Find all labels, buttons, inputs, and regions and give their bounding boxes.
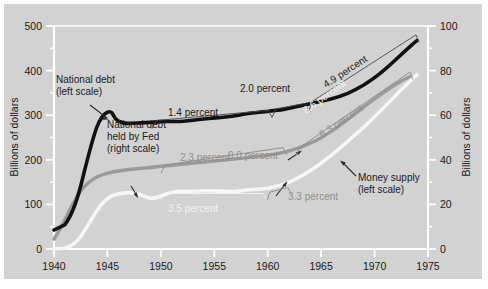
x-tick-1945: 1945 bbox=[96, 260, 120, 272]
annotation-national-debt-line1: National debt bbox=[56, 74, 115, 85]
left-tick-200: 200 bbox=[24, 154, 42, 166]
x-tick-1940: 1940 bbox=[42, 260, 66, 272]
annotation-money-supply-line1: Money supply bbox=[358, 172, 420, 183]
annotation-fed-debt-line2: held by Fed bbox=[107, 131, 159, 142]
annotation-rate-9-0: 9.0 percent bbox=[228, 150, 278, 161]
right-tick-labels: 100 80 60 40 20 0 bbox=[440, 20, 458, 255]
axes bbox=[46, 26, 436, 257]
right-tick-100: 100 bbox=[440, 20, 458, 32]
annotation-rate-2-0: 2.0 percent bbox=[240, 83, 290, 94]
annotation-rate-2-3: 2.3 percent bbox=[180, 152, 230, 163]
x-tick-1965: 1965 bbox=[309, 260, 333, 272]
leader-national-debt bbox=[90, 105, 107, 118]
right-tick-40: 40 bbox=[440, 154, 452, 166]
chart-figure: 500 400 300 200 100 0 100 80 60 40 20 0 … bbox=[0, 0, 488, 289]
annotation-national-debt-line2: (left scale) bbox=[56, 86, 102, 97]
annotation-money-supply-line2: (left scale) bbox=[358, 184, 404, 195]
x-tick-labels: 1940 1945 1950 1955 1960 1965 1970 1975 bbox=[42, 260, 440, 272]
x-tick-1955: 1955 bbox=[203, 260, 227, 272]
x-tick-1970: 1970 bbox=[363, 260, 387, 272]
annotation-rate-1-4: 1.4 percent bbox=[168, 107, 218, 118]
left-tick-labels: 500 400 300 200 100 0 bbox=[24, 20, 42, 255]
right-tick-20: 20 bbox=[440, 198, 452, 210]
plot-area: 500 400 300 200 100 0 100 80 60 40 20 0 … bbox=[0, 0, 488, 289]
chart-svg: 500 400 300 200 100 0 100 80 60 40 20 0 … bbox=[0, 0, 488, 289]
x-tick-1950: 1950 bbox=[149, 260, 173, 272]
bottom-ticks bbox=[54, 249, 428, 257]
left-tick-300: 300 bbox=[24, 109, 42, 121]
right-tick-60: 60 bbox=[440, 109, 452, 121]
x-tick-1960: 1960 bbox=[256, 260, 280, 272]
annotation-fed-debt-line3: (right scale) bbox=[107, 143, 159, 154]
right-tick-80: 80 bbox=[440, 65, 452, 77]
left-tick-100: 100 bbox=[24, 198, 42, 210]
x-tick-1975: 1975 bbox=[416, 260, 440, 272]
left-tick-400: 400 bbox=[24, 65, 42, 77]
series-fed-debt bbox=[54, 75, 417, 249]
left-tick-0: 0 bbox=[36, 243, 42, 255]
annotation-rate-3-3: 3.3 percent bbox=[288, 191, 338, 202]
left-axis-title: Billions of dollars bbox=[8, 98, 20, 177]
annotation-fed-debt-line1: National debt bbox=[107, 119, 166, 130]
right-tick-0: 0 bbox=[440, 243, 446, 255]
left-tick-500: 500 bbox=[24, 20, 42, 32]
bracket-3-5 bbox=[161, 194, 267, 201]
annotation-rate-3-5: 3.5 percent bbox=[168, 203, 218, 214]
right-axis-title: Billions of dollars bbox=[460, 98, 472, 177]
